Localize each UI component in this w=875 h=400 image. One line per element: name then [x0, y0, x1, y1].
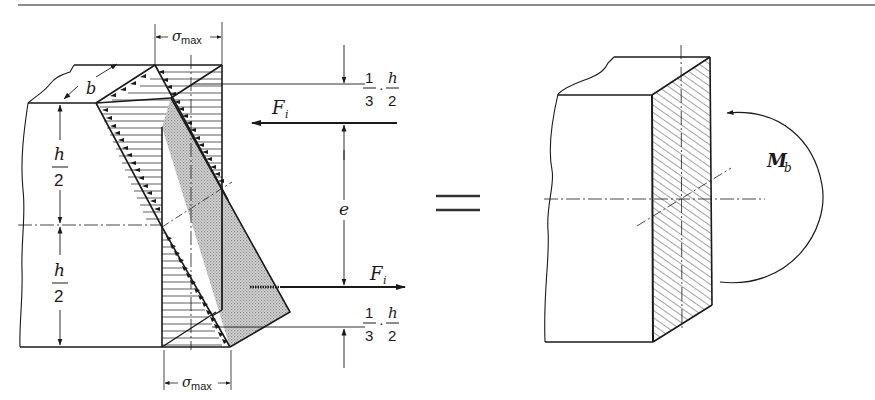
frac-den: 2: [388, 327, 396, 344]
frac-den: 2: [388, 92, 396, 109]
block-wavy-top: [558, 57, 614, 94]
moment-arc: [720, 112, 823, 282]
label-h-upper-num: h: [54, 144, 65, 164]
stress-line-top-front: [96, 103, 162, 227]
label-h-lower-den: 2: [54, 287, 63, 306]
label-third-h-half-bottom: 1 3 · h 2: [363, 304, 399, 344]
right-figure: [544, 45, 823, 342]
label-sigma-top-sub: max: [181, 34, 202, 46]
frac-num: 1: [365, 69, 373, 86]
block-top-wavy-edge: [28, 65, 74, 103]
frac-dot: ·: [379, 315, 384, 331]
label-e: e: [339, 199, 349, 219]
frac-num: h: [388, 69, 398, 87]
stress-line-top-left: [96, 65, 155, 103]
frac-num: h: [388, 304, 398, 322]
label-force-bottom-sub: i: [383, 274, 387, 287]
label-b: b: [86, 79, 96, 98]
frac-den: 3: [365, 92, 373, 109]
frac-num: 1: [365, 304, 373, 321]
block-wavy-left: [545, 94, 558, 342]
label-force-bottom: F: [369, 263, 384, 284]
label-third-h-half-top: 1 3 · h 2: [363, 69, 399, 109]
frac-den: 3: [365, 327, 373, 344]
right-labels: M b: [766, 150, 792, 175]
dim-b-b: [96, 64, 117, 77]
label-force-top: F: [271, 97, 286, 118]
equals-sign: [436, 196, 480, 210]
label-h-lower-num: h: [54, 260, 65, 280]
label-moment-sub: b: [784, 161, 792, 175]
stress-line-inner-top: [96, 98, 171, 103]
frac-dot: ·: [379, 80, 384, 96]
dim-b-a: [64, 86, 78, 99]
bending-stress-diagram: b σ max σ max h 2 h 2 e F i F i 1 3 · h …: [0, 0, 875, 400]
front-right-edge: [652, 95, 653, 342]
label-h-upper-den: 2: [54, 171, 63, 190]
label-sigma-bottom-sub: max: [191, 380, 212, 392]
label-force-top-sub: i: [285, 108, 289, 121]
